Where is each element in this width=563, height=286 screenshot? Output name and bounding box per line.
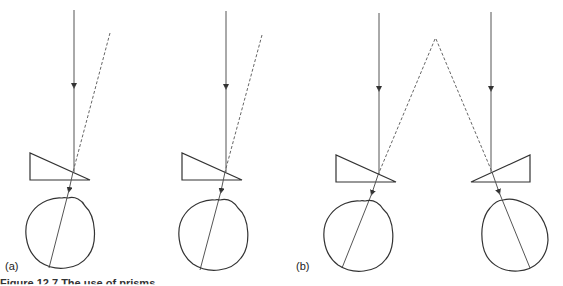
eye	[179, 199, 248, 270]
prism	[336, 155, 396, 182]
diagram-a2	[179, 11, 262, 270]
prism	[30, 153, 90, 180]
prism	[471, 155, 530, 182]
refracted-ray	[49, 190, 69, 268]
virtual-image-ray	[436, 39, 492, 172]
prism	[182, 153, 242, 180]
refracted-ray-arrow	[221, 172, 225, 191]
virtual-image-ray	[378, 39, 435, 175]
diagram-b1	[324, 13, 435, 271]
refracted-ray-arrow	[69, 172, 73, 190]
panel-label-a: (a)	[5, 260, 18, 272]
diagram-a1	[26, 10, 110, 268]
refracted-ray	[342, 193, 372, 268]
prism-eye-diagram	[0, 0, 563, 286]
virtual-image-ray	[73, 33, 110, 172]
eye	[324, 200, 393, 271]
eye	[26, 197, 95, 268]
refracted-ray	[200, 191, 221, 270]
virtual-image-ray	[225, 35, 262, 172]
diagram-b2	[436, 12, 548, 271]
refracted-ray-arrow	[372, 175, 378, 193]
panel-label-b: (b)	[296, 260, 309, 272]
eye	[482, 199, 548, 271]
